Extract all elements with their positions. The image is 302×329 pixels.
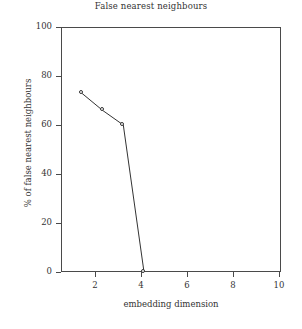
data-point-marker xyxy=(141,269,145,273)
x-tick-label-text: 8 xyxy=(218,281,248,290)
x-tick-mark xyxy=(279,272,280,277)
x-tick-label-6: 6 xyxy=(172,281,202,292)
data-point-marker xyxy=(79,90,83,94)
chart-title: False nearest neighbours xyxy=(0,1,302,11)
x-tick-label-2: 2 xyxy=(80,281,110,292)
y-tick-mark xyxy=(56,27,61,28)
x-tick-label-text: 6 xyxy=(172,281,202,290)
x-tick-label-4: 4 xyxy=(126,281,156,292)
x-axis-label: embedding dimension xyxy=(61,299,281,309)
y-tick-label-100: 100 xyxy=(18,22,52,32)
y-tick-mark xyxy=(56,223,61,224)
x-tick-label-8: 8 xyxy=(218,281,248,292)
chart-figure: False nearest neighbours 0 20 40 60 80 1… xyxy=(0,0,302,329)
x-tick-label-text: 4 xyxy=(126,281,156,290)
data-point-marker xyxy=(100,107,104,111)
y-tick-label-0: 0 xyxy=(18,267,52,277)
y-tick-mark xyxy=(56,174,61,175)
y-tick-mark xyxy=(56,272,61,273)
y-axis-label: % of false nearest neighbours xyxy=(23,53,33,233)
x-tick-label-10: 10 xyxy=(264,281,294,292)
y-tick-label-text: 0 xyxy=(22,267,52,276)
y-tick-mark xyxy=(56,125,61,126)
x-tick-label-text: 2 xyxy=(80,281,110,290)
y-tick-label-text: 100 xyxy=(22,22,52,31)
x-tick-mark xyxy=(187,272,188,277)
plot-frame xyxy=(61,27,281,272)
x-tick-mark xyxy=(95,272,96,277)
y-tick-mark xyxy=(56,76,61,77)
x-tick-mark xyxy=(233,272,234,277)
x-tick-label-text: 10 xyxy=(264,281,294,290)
